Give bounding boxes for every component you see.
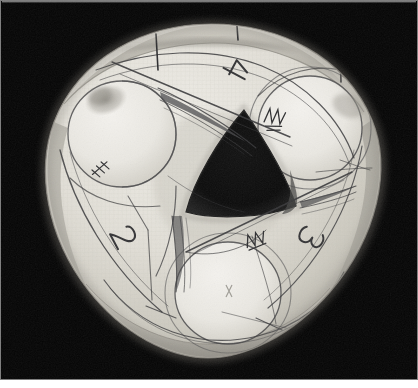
photograph-frame: 4 2 3 xyxy=(0,0,418,388)
photo-bottom-strip xyxy=(0,380,418,388)
model-photograph xyxy=(0,0,418,388)
film-grain-overlay xyxy=(0,0,418,380)
